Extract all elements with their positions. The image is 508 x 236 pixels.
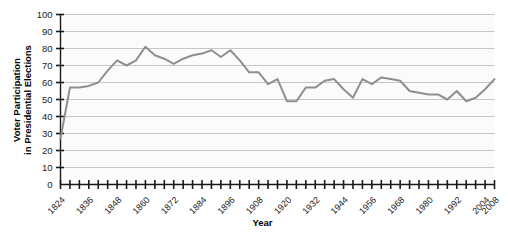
x-tick-label: 1908 — [244, 195, 265, 216]
y-tick-label: 50 — [42, 94, 53, 105]
y-tick-label: 60 — [42, 77, 53, 88]
y-tick-label: 30 — [42, 128, 53, 139]
x-tick-label: 1932 — [300, 195, 321, 216]
x-tick-label: 1872 — [159, 195, 180, 216]
x-tick-label: 1884 — [187, 195, 208, 216]
y-tick-label: 40 — [42, 111, 53, 122]
y-axis-title-line2: in Presidential Elections — [22, 45, 33, 155]
y-tick-labels-group: 0102030405060708090100 — [37, 9, 53, 190]
y-tick-label: 100 — [37, 9, 53, 20]
voter-participation-line-chart: 0102030405060708090100 18241836184818601… — [0, 0, 508, 236]
y-tick-label: 90 — [42, 26, 53, 37]
x-tick-label: 1968 — [385, 195, 406, 216]
y-tick-label: 10 — [42, 162, 53, 173]
x-tick-label: 1848 — [102, 195, 123, 216]
x-tick-labels-group: 1824183618481860187218841896190819201932… — [46, 195, 501, 216]
x-tick-label: 1896 — [216, 195, 237, 216]
x-tick-label: 1836 — [74, 195, 95, 216]
y-tick-label: 20 — [42, 145, 53, 156]
x-tick-label: 1956 — [357, 195, 378, 216]
x-tick-label: 1944 — [329, 195, 350, 216]
x-tick-label: 1824 — [46, 195, 67, 216]
chart-canvas: 0102030405060708090100 18241836184818601… — [0, 0, 508, 236]
x-tick-label: 1860 — [131, 195, 152, 216]
y-axis-title-line1: Voter Participation — [11, 58, 22, 142]
y-tick-label: 80 — [42, 43, 53, 54]
x-tick-label: 1992 — [442, 195, 463, 216]
y-tick-label: 0 — [47, 179, 52, 190]
x-tick-label: 1980 — [414, 195, 435, 216]
y-tick-label: 70 — [42, 60, 53, 71]
x-tick-label: 1920 — [272, 195, 293, 216]
x-axis-title: Year — [252, 217, 272, 228]
